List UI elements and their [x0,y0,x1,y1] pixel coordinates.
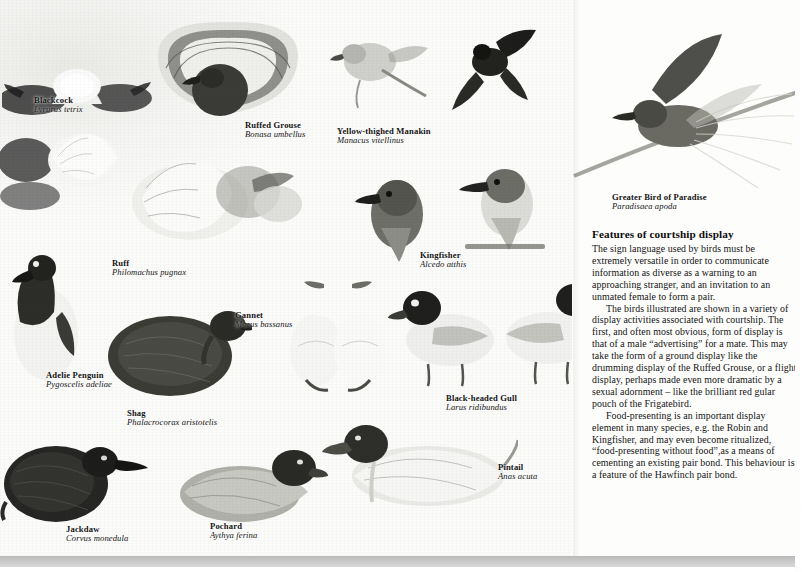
column-gutter-rule [573,0,584,556]
caption-black-headed-gull: Black-headed Gull Larus ridibundus [446,394,517,413]
jackdaw-illustration [0,424,176,536]
pintail-illustration [318,420,518,530]
caption-gannet: Gannet Morus bassanus [235,311,293,330]
pochard-illustration [166,440,330,534]
caption-blackcock: Blackcock Lyrurus tetrix [34,96,83,115]
shag-illustration [86,286,252,416]
bird-of-paradise-illustration [556,30,572,190]
paper-grain-overlay [0,0,572,556]
article-paragraph-3: Food-presenting is an important display … [592,410,797,481]
caption-latin-name: Philomachus pugnax [112,268,186,277]
caption-shag: Shag Phalacrocorax aristotelis [127,409,217,428]
caption-greater-bird-of-paradise: Greater Bird of Paradise Paradisaea apod… [612,193,707,212]
manakin-illustration [330,24,450,116]
blackcock-lower-illustration [0,120,140,212]
article-text-column: Features of courtship display The sign l… [592,228,797,481]
manakin-black-illustration [448,22,552,118]
caption-latin-name: Manacus vitellinus [337,136,431,145]
article-paragraph-2: The birds illustrated are shown in a var… [592,303,797,410]
caption-adelie-penguin: Adelie Penguin Pygoscelis adeliae [46,371,112,390]
caption-latin-name: Pygoscelis adeliae [46,380,112,389]
caption-pintail: Pintail Anas acuta [498,463,537,482]
black-headed-gull-right-illustration [490,270,572,388]
caption-latin-name: Larus ridibundus [446,403,517,412]
caption-ruff: Ruff Philomachus pugnax [112,259,186,278]
caption-pochard: Pochard Aythya ferina [210,522,257,541]
caption-latin-name: Phalacrocorax aristotelis [127,418,217,427]
scan-edge-bar [0,556,795,567]
caption-latin-name: Aythya ferina [210,531,257,540]
black-headed-gull-left-illustration [388,278,508,390]
caption-latin-name: Bonasa umbellus [245,130,305,139]
page-root: Blackcock Lyrurus tetrix Ruffed Grouse B… [0,0,807,572]
ruffed-grouse-illustration [148,18,308,130]
caption-kingfisher: Kingfisher Alcedo atthis [420,251,466,270]
scan-edge-shadow [0,567,807,572]
illustration-plate: Blackcock Lyrurus tetrix Ruffed Grouse B… [0,0,572,556]
caption-jackdaw: Jackdaw Corvus monedula [66,525,128,544]
page-right-margin [795,0,807,572]
caption-latin-name: Alcedo atthis [420,260,466,269]
adelie-penguin-illustration [0,248,110,384]
caption-latin-name: Lyrurus tetrix [34,105,83,114]
caption-latin-name: Paradisaea apoda [612,202,707,211]
ruff-illustration [112,140,312,258]
caption-latin-name: Morus bassanus [235,320,293,329]
article-paragraph-1: The sign language used by birds must be … [592,243,797,303]
caption-ruffed-grouse: Ruffed Grouse Bonasa umbellus [245,121,305,140]
caption-latin-name: Corvus monedula [66,534,128,543]
article-heading: Features of courtship display [592,228,797,240]
caption-latin-name: Anas acuta [498,472,537,481]
caption-yellow-thighed-manakin: Yellow-thighed Manakin Manacus vitellinu… [337,127,431,146]
gannet-pair-illustration [276,276,400,394]
kingfisher-right-illustration [455,160,551,260]
bird-of-paradise-overflow-illustration [560,26,805,196]
